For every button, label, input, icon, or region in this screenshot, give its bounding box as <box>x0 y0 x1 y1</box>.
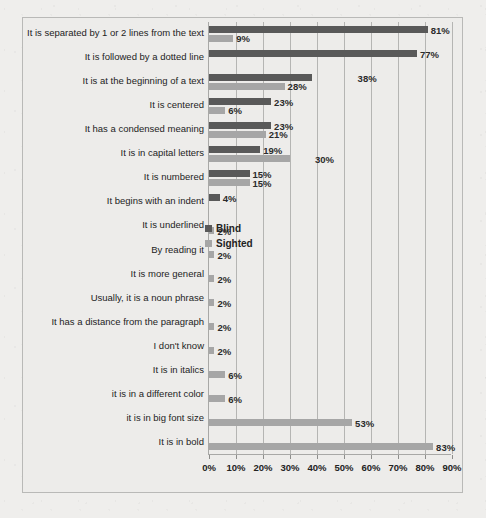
bar-blind <box>209 50 417 57</box>
chart-category-row: It is in bold83% <box>209 431 451 455</box>
category-label: It is at the beginning of a text <box>83 76 204 86</box>
chart-category-row: It is numbered15%15% <box>209 166 451 190</box>
chart-category-row: It is in capital letters19%30% <box>209 142 451 166</box>
chart-category-row: it is in big font size53% <box>209 407 451 431</box>
bar-value-label: 6% <box>228 371 242 380</box>
legend-label: Sighted <box>216 238 253 249</box>
bar-value-label: 2% <box>217 347 231 356</box>
chart-category-row: It is separated by 1 or 2 lines from the… <box>209 22 451 46</box>
bar-sighted <box>209 299 214 306</box>
x-tick-label: 0% <box>202 462 216 473</box>
bar-value-label: 4% <box>223 194 237 203</box>
chart-category-row: It has a condensed meaning23%21% <box>209 118 451 142</box>
tick-mark-20 <box>263 455 264 459</box>
bar-value-label: 77% <box>420 50 439 59</box>
category-label: it is in big font size <box>126 413 204 423</box>
x-tick-label: 20% <box>253 462 272 473</box>
bar-sighted <box>209 395 225 402</box>
chart-legend: BlindSighted <box>205 223 253 253</box>
bar-blind <box>209 146 260 153</box>
bar-sighted <box>209 443 433 450</box>
category-label: It is more general <box>131 269 204 279</box>
bar-value-label: 6% <box>228 395 242 404</box>
plot-wrapper: It is separated by 1 or 2 lines from the… <box>23 18 462 492</box>
chart-category-row: It is centered23%6% <box>209 94 451 118</box>
x-tick-label: 30% <box>280 462 299 473</box>
chart-category-row: It is in italics6% <box>209 359 451 383</box>
x-tick-label: 10% <box>226 462 245 473</box>
chart-category-row: It is followed by a dotted line77% <box>209 46 451 70</box>
category-label: By reading it <box>151 245 204 255</box>
bar-value-label: 9% <box>236 34 250 43</box>
tick-mark-80 <box>425 455 426 459</box>
bar-value-label: 30% <box>315 155 334 164</box>
bar-blind <box>209 98 271 105</box>
bar-blind <box>209 26 428 33</box>
bar-value-label: 6% <box>228 106 242 115</box>
bar-sighted <box>209 347 214 354</box>
chart-category-row: It begins with an indent4% <box>209 190 451 214</box>
bar-value-label: 23% <box>274 98 293 107</box>
gridline-90 <box>452 22 453 454</box>
tick-mark-10 <box>236 455 237 459</box>
bar-value-label: 38% <box>358 74 377 83</box>
category-label: It is in bold <box>159 437 204 447</box>
tick-mark-50 <box>344 455 345 459</box>
chart-category-row: It is more general2% <box>209 263 451 287</box>
x-tick-label: 80% <box>415 462 434 473</box>
category-label: It has a distance from the paragraph <box>51 317 204 327</box>
legend-label: Blind <box>216 223 241 234</box>
bar-sighted <box>209 107 225 114</box>
legend-entry: Blind <box>205 223 253 234</box>
chart-category-row: Usually, it is a noun phrase2% <box>209 287 451 311</box>
bar-sighted <box>209 419 352 426</box>
tick-mark-90 <box>452 455 453 459</box>
chart-category-row: it is in a different color6% <box>209 383 451 407</box>
chart-frame: It is separated by 1 or 2 lines from the… <box>22 17 463 493</box>
chart-category-row: It has a distance from the paragraph2% <box>209 311 451 335</box>
x-tick-label: 60% <box>361 462 380 473</box>
bar-value-label: 83% <box>436 443 455 452</box>
tick-mark-70 <box>398 455 399 459</box>
tick-mark-60 <box>371 455 372 459</box>
bar-sighted <box>209 179 250 186</box>
bar-value-label: 2% <box>217 275 231 284</box>
chart-category-row: It is at the beginning of a text38%28% <box>209 70 451 94</box>
category-label: It is separated by 1 or 2 lines from the… <box>27 28 204 38</box>
bar-value-label: 2% <box>217 299 231 308</box>
bar-sighted <box>209 155 290 162</box>
bar-blind <box>209 194 220 201</box>
bar-value-label: 15% <box>253 179 272 188</box>
x-tick-label: 70% <box>388 462 407 473</box>
bar-value-label: 28% <box>288 82 307 91</box>
legend-swatch-blind <box>205 225 212 232</box>
category-label: It is numbered <box>144 172 204 182</box>
bar-sighted <box>209 275 214 282</box>
category-label: It has a condensed meaning <box>85 124 204 134</box>
chart-category-row: I don't know2% <box>209 335 451 359</box>
bar-sighted <box>209 131 266 138</box>
category-label: Usually, it is a noun phrase <box>91 293 204 303</box>
tick-mark-0 <box>209 455 210 459</box>
x-tick-label: 40% <box>307 462 326 473</box>
bar-sighted <box>209 83 285 90</box>
category-label: It is centered <box>150 100 204 110</box>
category-label: It is followed by a dotted line <box>85 52 204 62</box>
category-label: it is in a different color <box>112 389 204 399</box>
category-label: I don't know <box>154 341 204 351</box>
bar-blind <box>209 170 250 177</box>
legend-swatch-sighted <box>205 240 212 247</box>
bar-sighted <box>209 35 233 42</box>
bar-blind <box>209 122 271 129</box>
x-tick-label: 90% <box>442 462 461 473</box>
category-label: It is in italics <box>153 365 204 375</box>
bar-blind <box>209 74 312 81</box>
category-label: It begins with an indent <box>107 196 204 206</box>
bar-sighted <box>209 371 225 378</box>
bar-value-label: 53% <box>355 419 374 428</box>
category-label: It is underlined <box>142 220 204 230</box>
bar-value-label: 19% <box>263 146 282 155</box>
bar-value-label: 2% <box>217 323 231 332</box>
legend-entry: Sighted <box>205 238 253 249</box>
tick-mark-40 <box>317 455 318 459</box>
